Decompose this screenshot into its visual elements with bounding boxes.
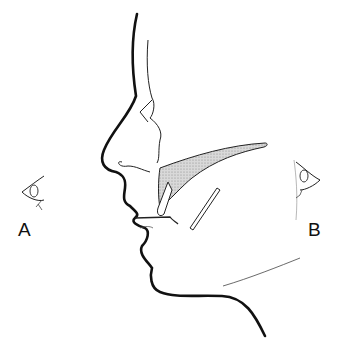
swab-stick xyxy=(190,188,220,230)
nostril-line xyxy=(119,162,150,172)
nose-bridge-line xyxy=(147,40,161,163)
label-b: B xyxy=(308,219,321,241)
face-profile-illustration xyxy=(0,0,341,352)
mouth-line xyxy=(135,217,178,224)
jaw-line xyxy=(223,258,300,286)
cheek-line xyxy=(294,160,297,220)
eye-b-illustration xyxy=(296,162,320,198)
label-a: A xyxy=(18,219,31,241)
eye-a-illustration xyxy=(22,176,44,210)
